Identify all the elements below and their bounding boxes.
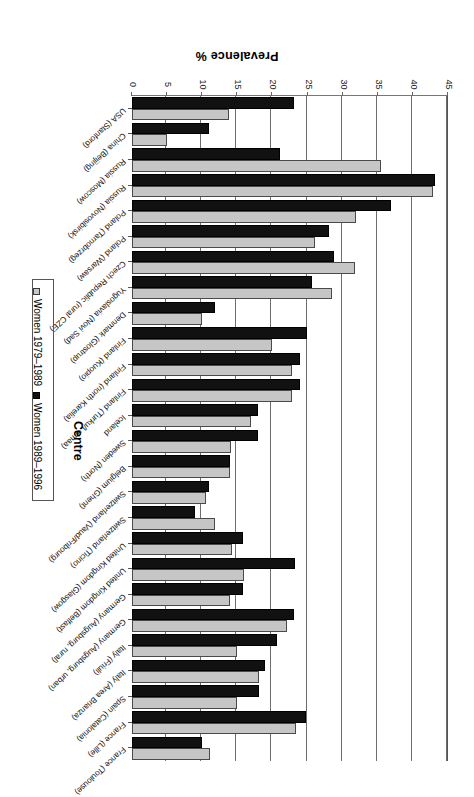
bar-women-1979-1989 [132, 390, 292, 402]
bar-women-1989-1996 [132, 660, 265, 672]
legend-entry: Women 1989–1996 [31, 392, 42, 490]
x-tick-label: 25 [303, 70, 312, 100]
bar-women-1979-1989 [132, 569, 244, 581]
bar-women-1989-1996 [132, 583, 243, 595]
bar-women-1989-1996 [132, 404, 258, 416]
category-tick [128, 312, 132, 313]
bar-women-1979-1989 [132, 313, 202, 325]
x-axis-baseline [131, 95, 448, 96]
bar-women-1979-1989 [132, 672, 259, 684]
bar-women-1979-1989 [132, 646, 237, 658]
category-tick [128, 491, 132, 492]
category-tick [128, 466, 132, 467]
bar-women-1989-1996 [132, 276, 312, 288]
category-tick [128, 236, 132, 237]
bar-women-1989-1996 [132, 634, 277, 646]
bar-women-1989-1996 [132, 532, 243, 544]
bar-women-1989-1996 [132, 225, 329, 237]
bar-women-1979-1989 [132, 339, 272, 351]
category-label: Iceland [102, 413, 127, 437]
legend-label: Women 1979–1989 [32, 299, 43, 386]
bar-women-1989-1996 [132, 558, 295, 570]
x-tick-label: 10 [198, 70, 207, 100]
bar-women-1979-1989 [132, 544, 232, 556]
category-label: Russia (Moscow) [75, 157, 127, 206]
bar-women-1979-1989 [132, 186, 433, 198]
category-tick [128, 670, 132, 671]
category-tick [128, 159, 132, 160]
category-label: Spain (Catalonia) [75, 694, 127, 743]
bar-women-1989-1996 [132, 506, 195, 518]
category-label: France (Toulouse) [73, 745, 127, 796]
bar-women-1989-1996 [132, 455, 230, 467]
legend-entry: Women 1979–1989 [31, 288, 42, 386]
category-tick [128, 210, 132, 211]
bar-women-1979-1989 [132, 160, 381, 172]
bar-women-1989-1996 [132, 481, 209, 493]
bar-women-1979-1989 [132, 723, 296, 735]
category-tick [128, 645, 132, 646]
category-tick [128, 517, 132, 518]
bar-women-1979-1989 [132, 237, 315, 249]
legend: Women 1979–1989Women 1989–1996 [32, 279, 54, 501]
x-tick-label: 35 [373, 70, 382, 100]
category-label: Poland (Warsaw) [75, 234, 126, 283]
legend-swatch-light [33, 288, 40, 295]
legend-label: Women 1989–1996 [32, 403, 43, 490]
bar-women-1979-1989 [132, 492, 206, 504]
y-axis-title: Centre [71, 421, 85, 461]
x-tick-label: 15 [233, 70, 242, 100]
x-axis-title: Prevalence % [137, 49, 337, 63]
bar-women-1989-1996 [132, 685, 259, 697]
bar-women-1989-1996 [132, 379, 300, 391]
category-tick [128, 389, 132, 390]
category-tick [128, 261, 132, 262]
bar-women-1979-1989 [132, 518, 215, 530]
bar-women-1979-1989 [132, 595, 230, 607]
bar-women-1979-1989 [132, 109, 229, 121]
x-tick-label: 45 [444, 70, 453, 100]
bar-women-1989-1996 [132, 430, 258, 442]
bar-women-1979-1989 [132, 211, 356, 223]
bar-women-1979-1989 [132, 416, 251, 428]
bar-women-1989-1996 [132, 97, 294, 109]
bar-women-1979-1989 [132, 262, 355, 274]
bar-women-1979-1989 [132, 697, 237, 709]
category-tick [128, 696, 132, 697]
category-tick [128, 364, 132, 365]
x-tick-label: 30 [338, 70, 347, 100]
category-tick [128, 722, 132, 723]
bar-women-1979-1989 [132, 288, 332, 300]
bar-women-1989-1996 [132, 737, 202, 749]
bar-women-1979-1989 [132, 441, 231, 453]
bar-women-1989-1996 [132, 609, 294, 621]
gridline [446, 96, 447, 761]
bar-women-1989-1996 [132, 353, 300, 365]
category-tick [128, 108, 132, 109]
x-tick-label: 40 [408, 70, 417, 100]
bar-women-1989-1996 [132, 711, 306, 723]
bar-women-1979-1989 [132, 620, 287, 632]
category-tick [128, 133, 132, 134]
bar-women-1979-1989 [132, 467, 230, 479]
bar-women-1979-1989 [132, 134, 167, 146]
category-tick [128, 338, 132, 339]
bar-women-1989-1996 [132, 327, 307, 339]
category-tick [128, 440, 132, 441]
category-tick [128, 619, 132, 620]
category-tick [128, 287, 132, 288]
category-tick [128, 415, 132, 416]
bar-women-1989-1996 [132, 302, 215, 314]
category-tick [128, 185, 132, 186]
x-tick-label: 5 [163, 70, 172, 100]
bar-women-1989-1996 [132, 123, 209, 135]
bar-women-1989-1996 [132, 251, 334, 263]
x-tick-label: 20 [268, 70, 277, 100]
bar-women-1989-1996 [132, 174, 435, 186]
category-tick [128, 747, 132, 748]
category-tick [128, 594, 132, 595]
bar-women-1989-1996 [132, 200, 391, 212]
bar-women-1979-1989 [132, 748, 210, 760]
category-tick [128, 568, 132, 569]
